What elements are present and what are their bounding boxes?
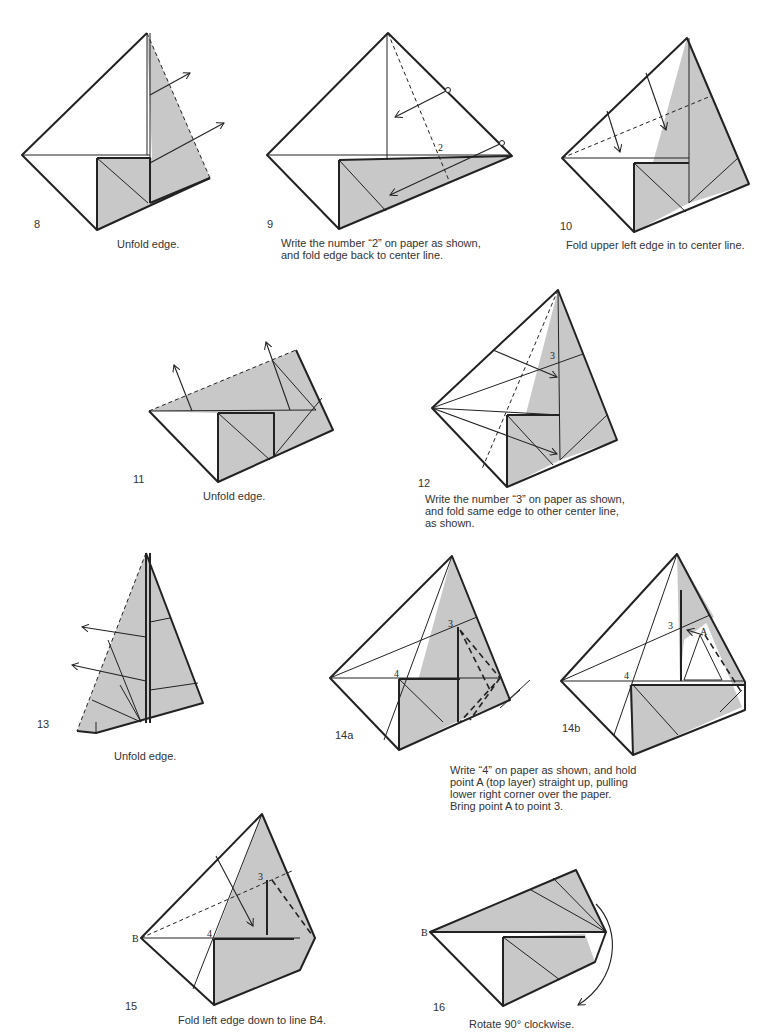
step-9-diagram: [267, 33, 512, 229]
step-number: 9: [267, 218, 273, 230]
step-11-caption: Unfold edge.: [203, 490, 265, 502]
marker-3: 3: [258, 871, 263, 882]
step-8-caption: Unfold edge.: [117, 238, 179, 250]
step-11-diagram: [149, 342, 333, 482]
step-number: 12: [418, 477, 430, 489]
step-16-caption: Rotate 90° clockwise.: [469, 1018, 574, 1030]
step-13-diagram: [72, 553, 203, 733]
marker-3: 3: [448, 618, 453, 629]
step-8-diagram: [22, 33, 224, 230]
step-number: 16: [433, 1001, 445, 1013]
step-16-diagram: [430, 870, 612, 1006]
step-13-caption: Unfold edge.: [114, 750, 176, 762]
marker-4: 4: [207, 928, 212, 939]
marker-b: B: [421, 927, 428, 938]
step-10-diagram: [562, 38, 749, 232]
marker-b: B: [132, 933, 139, 944]
step-14a-diagram: [330, 556, 530, 750]
step-number: 8: [34, 218, 40, 230]
step-number: 14a: [335, 729, 353, 741]
step-number: 13: [37, 718, 49, 730]
step-10-caption: Fold upper left edge in to center line.: [566, 239, 745, 251]
step-number: 14b: [562, 722, 580, 734]
origami-diagrams: [0, 0, 766, 1036]
step-15-caption: Fold left edge down to line B4.: [178, 1014, 326, 1026]
step-number: 11: [133, 473, 144, 485]
step-14-caption: Write “4” on paper as shown, and hold po…: [450, 764, 636, 812]
step-12-diagram: [432, 290, 617, 487]
marker-4: 4: [624, 670, 629, 681]
step-15-diagram: [141, 814, 315, 1005]
step-number: 15: [125, 1000, 137, 1012]
marker-4: 4: [394, 668, 399, 679]
step-14b-diagram: [561, 554, 745, 755]
marker-3: 3: [550, 350, 555, 361]
step-number: 10: [560, 220, 572, 232]
step-12-caption: Write the number “3” on paper as shown, …: [425, 493, 625, 529]
marker-a: A: [700, 626, 707, 637]
step-9-caption: Write the number “2” on paper as shown, …: [281, 237, 481, 261]
marker-3: 3: [668, 620, 673, 631]
marker-2: 2: [438, 142, 443, 153]
